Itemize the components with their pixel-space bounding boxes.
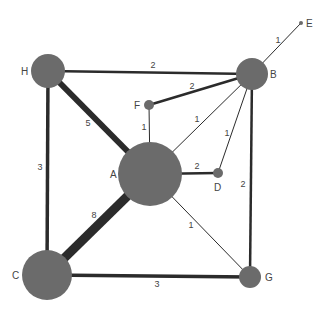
edge-weight-label: 3 [154, 279, 159, 289]
edge-h-b [48, 71, 252, 74]
edge-weight-label: 1 [194, 114, 199, 124]
node-e [299, 21, 303, 25]
edge-weight-label: 8 [91, 210, 96, 220]
edge-weight-label: 2 [240, 179, 245, 189]
edge-layer [47, 23, 301, 277]
node-b [236, 58, 268, 90]
edge-weight-label: 5 [85, 118, 90, 128]
edge-weight-label: 1 [275, 35, 280, 45]
node-g [239, 266, 261, 288]
edge-h-c [47, 71, 48, 275]
node-f [144, 100, 154, 110]
node-label-d: D [214, 182, 221, 193]
edge-weight-label: 2 [194, 161, 199, 171]
node-label-h: H [21, 66, 28, 77]
edge-weight-label: 3 [37, 162, 42, 172]
weighted-graph-diagram: 2538312112121ABCDEFGH [0, 0, 331, 318]
node-layer [22, 21, 303, 300]
edge-b-g [250, 74, 252, 277]
node-a [118, 142, 182, 206]
node-label-e: E [306, 18, 313, 29]
node-d [213, 168, 223, 178]
node-label-f: F [134, 100, 140, 111]
edge-weight-label: 2 [189, 81, 194, 91]
edge-weight-label: 1 [224, 128, 229, 138]
node-label-a: A [110, 169, 117, 180]
node-label-g: G [265, 272, 273, 283]
edge-weight-label: 1 [141, 122, 146, 132]
edge-c-g [47, 275, 250, 277]
node-h [31, 54, 65, 88]
edge-weight-label: 2 [150, 60, 155, 70]
node-label-c: C [12, 270, 19, 281]
node-c [22, 250, 72, 300]
node-label-b: B [270, 69, 277, 80]
edge-weight-label: 1 [188, 220, 193, 230]
